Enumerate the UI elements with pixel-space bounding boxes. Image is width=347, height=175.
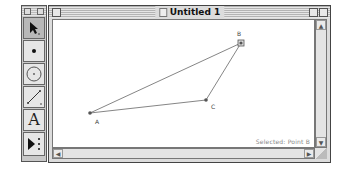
label-c: C <box>211 103 215 110</box>
straightedge-tool[interactable] <box>23 86 45 108</box>
document-icon <box>159 8 167 17</box>
point-b[interactable] <box>239 41 242 44</box>
compass-icon <box>25 65 43 83</box>
palette-close-box[interactable] <box>24 8 31 15</box>
scroll-left-arrow-icon[interactable]: ◀ <box>53 149 63 158</box>
close-box[interactable] <box>52 8 61 17</box>
text-tool[interactable]: A <box>23 109 45 131</box>
title-bar[interactable]: Untitled 1 <box>49 6 330 18</box>
scroll-down-arrow-icon[interactable]: ▼ <box>316 137 326 147</box>
scroll-right-arrow-icon[interactable]: ▶ <box>304 149 314 158</box>
windowshade-box[interactable] <box>319 8 328 17</box>
sketch-window: Untitled 1 A C B Selected: Point B ▲ ▼ <box>48 5 331 163</box>
custom-tool-icon <box>25 135 43 153</box>
segment-ab[interactable] <box>90 43 241 113</box>
point-icon <box>26 43 42 59</box>
zoom-box[interactable] <box>309 8 318 17</box>
window-title: Untitled 1 <box>155 6 224 18</box>
status-text: Selected: Point B <box>256 138 310 145</box>
segment-icon <box>25 88 43 106</box>
sketch-canvas[interactable]: A C B Selected: Point B <box>52 19 315 148</box>
palette-title-bar[interactable] <box>22 6 46 16</box>
point-tool[interactable] <box>23 40 45 62</box>
palette-collapse-box[interactable] <box>37 8 44 15</box>
resize-grip-icon[interactable] <box>315 148 327 159</box>
vertical-scrollbar[interactable]: ▲ ▼ <box>315 19 327 148</box>
triangle-drawing: A C B <box>53 20 314 147</box>
label-b: B <box>237 30 241 37</box>
horizontal-scrollbar[interactable]: ◀ ▶ <box>52 148 315 159</box>
arrow-tool[interactable] <box>23 17 45 39</box>
arrow-icon <box>26 20 42 36</box>
label-a: A <box>95 118 100 125</box>
text-icon: A <box>28 112 40 128</box>
compass-tool[interactable] <box>23 63 45 85</box>
point-a[interactable] <box>88 111 92 115</box>
point-c[interactable] <box>204 98 208 102</box>
custom-tool[interactable] <box>23 132 45 156</box>
scroll-up-arrow-icon[interactable]: ▲ <box>316 20 326 30</box>
segment-ac[interactable] <box>90 100 206 113</box>
toolbox-palette: A <box>21 5 47 162</box>
